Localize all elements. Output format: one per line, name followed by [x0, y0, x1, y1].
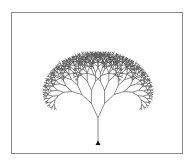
branch-paths	[42, 52, 153, 144]
fractal-tree-canvas	[0, 0, 195, 165]
tree-branches	[42, 52, 153, 144]
turtle-arrow-icon	[96, 141, 101, 146]
